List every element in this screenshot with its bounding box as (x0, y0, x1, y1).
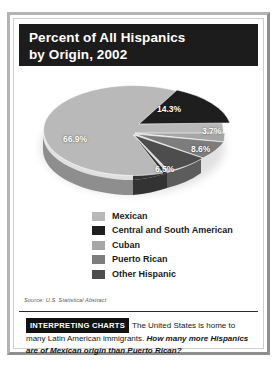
legend-item-puerto-rican: Puerto Rican (92, 253, 257, 268)
legend-swatch-cuban (92, 241, 105, 250)
legend-item-other-hispanic: Other Hispanic (92, 267, 257, 282)
legend-label-cuban: Cuban (112, 241, 140, 250)
chart-title-line-2: by Origin, 2002 (29, 46, 258, 63)
legend-item-central-south-american: Central and South American (92, 224, 257, 239)
caption-text: INTERPRETING CHARTSThe United States is … (26, 318, 251, 356)
legend-item-mexican: Mexican (92, 209, 257, 224)
legend-label-central-south-american: Central and South American (112, 226, 233, 235)
legend-label-mexican: Mexican (112, 212, 148, 221)
chart-legend: Mexican Central and South American Cuban… (92, 209, 257, 282)
legend-swatch-puerto-rican (92, 255, 105, 264)
legend-swatch-central-south-american (92, 226, 105, 235)
legend-swatch-mexican (92, 212, 105, 221)
interpreting-charts-badge: INTERPRETING CHARTS (26, 318, 129, 333)
pie-chart: 66.9% 14.3% 3.7% 8.6% 6.5% (19, 68, 258, 208)
figure-frame: Percent of All Hispanics by Origin, 2002 (7, 12, 270, 355)
figure-inner: Percent of All Hispanics by Origin, 2002 (13, 18, 264, 349)
legend-label-puerto-rican: Puerto Rican (112, 255, 168, 264)
pie-chart-plot-area: 66.9% 14.3% 3.7% 8.6% 6.5% (19, 68, 258, 208)
chart-title-bar: Percent of All Hispanics by Origin, 2002 (19, 24, 258, 66)
pie-chart-svg (21, 69, 257, 207)
legend-swatch-other-hispanic (92, 270, 105, 279)
legend-item-cuban: Cuban (92, 238, 257, 253)
source-note: Source: U.S. Statistical Abstract (24, 297, 106, 303)
chart-title-line-1: Percent of All Hispanics (29, 29, 258, 46)
interpreting-charts-caption: INTERPRETING CHARTSThe United States is … (19, 311, 258, 343)
legend-label-other-hispanic: Other Hispanic (112, 270, 176, 279)
